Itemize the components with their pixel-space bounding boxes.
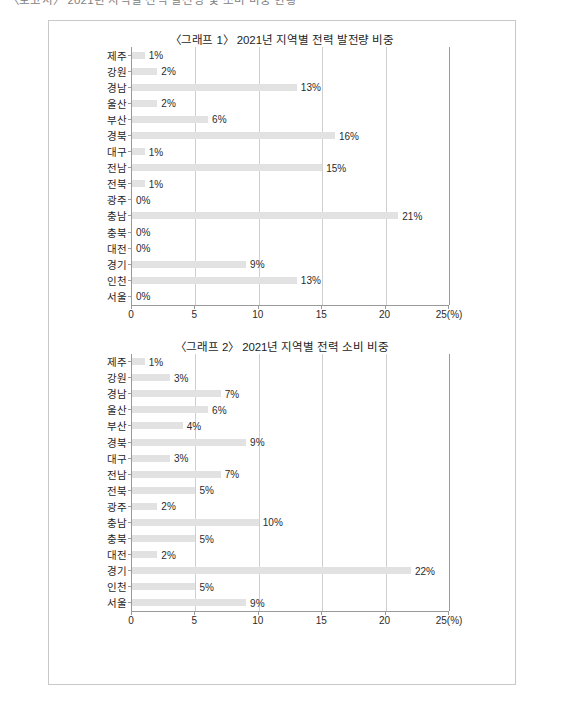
category-label: 울산 <box>53 402 127 417</box>
bar-row: 충남21% <box>132 208 448 224</box>
category-label: 광주 <box>53 499 127 514</box>
bar: 10% <box>132 519 259 526</box>
category-label: 전남 <box>53 160 127 175</box>
x-tick-label: 5 <box>192 615 198 626</box>
category-label: 제주 <box>53 354 127 369</box>
bar-row: 경북16% <box>132 127 448 143</box>
chart-1-rows: 제주1%강원2%경남13%울산2%부산6%경북16%대구1%전남15%전북1%광… <box>131 47 448 305</box>
bar: 1% <box>132 52 145 59</box>
bar: 4% <box>132 422 183 429</box>
bar-value-label: 5% <box>199 581 213 592</box>
category-label: 충북 <box>53 225 127 240</box>
bar-value-label: 10% <box>263 517 283 528</box>
category-label: 경남 <box>53 80 127 95</box>
bar: 2% <box>132 503 157 510</box>
x-tick-label: 0 <box>128 615 134 626</box>
bar: 1% <box>132 148 145 155</box>
bar: 15% <box>132 164 322 171</box>
bar-row: 충북5% <box>132 531 448 547</box>
chart-1-x-tick-labels: 0510152025(%) <box>131 306 448 322</box>
bar-value-label: 13% <box>301 275 321 286</box>
y-axis-tick <box>128 232 132 233</box>
bar: 9% <box>132 599 246 606</box>
x-tick-label: 20 <box>379 309 390 320</box>
bar-value-label: 9% <box>250 437 264 448</box>
chart-1-block: 〈그래프 1〉 2021년 지역별 전력 발전량 비중 제주1%강원2%경남13… <box>49 21 515 322</box>
x-tick-label: 10 <box>252 309 263 320</box>
bar-value-label: 2% <box>161 549 175 560</box>
bar: 2% <box>132 100 157 107</box>
chart-2-block: 〈그래프 2〉 2021년 지역별 전력 소비 비중 제주1%강원3%경남7%울… <box>49 322 515 629</box>
bar-row: 충북0% <box>132 224 448 240</box>
category-label: 경기 <box>53 257 127 272</box>
bar-row: 전남15% <box>132 160 448 176</box>
bar: 5% <box>132 487 195 494</box>
chart-1-plot: 제주1%강원2%경남13%울산2%부산6%경북16%대구1%전남15%전북1%광… <box>49 47 515 322</box>
category-label: 인천 <box>53 273 127 288</box>
bar-row: 서울0% <box>132 288 448 304</box>
bar: 2% <box>132 68 157 75</box>
category-label: 전북 <box>53 483 127 498</box>
bar-value-label: 7% <box>225 388 239 399</box>
bar-row: 경기9% <box>132 256 448 272</box>
bar: 5% <box>132 583 195 590</box>
category-label: 인천 <box>53 579 127 594</box>
gridline <box>449 354 450 612</box>
bar-value-label: 16% <box>339 130 359 141</box>
bar-value-label: 3% <box>174 453 188 464</box>
x-tick-label: 10 <box>252 615 263 626</box>
bar-row: 전북5% <box>132 482 448 498</box>
category-label: 경남 <box>53 386 127 401</box>
clipped-page-heading: 〈보고서〉 2021년 지역별 전력 발전량 및 소비 비중 현황 <box>8 0 548 5</box>
chart-2-x-tick-labels: 0510152025(%) <box>131 612 448 628</box>
y-axis-tick <box>128 248 132 249</box>
bar: 6% <box>132 406 208 413</box>
bar-value-label: 13% <box>301 82 321 93</box>
category-label: 제주 <box>53 48 127 63</box>
category-label: 전남 <box>53 467 127 482</box>
category-label: 충남 <box>53 515 127 530</box>
bar: 21% <box>132 212 398 219</box>
category-label: 대구 <box>53 451 127 466</box>
bar-row: 전북1% <box>132 176 448 192</box>
bar-value-label: 1% <box>149 50 163 61</box>
bar-value-label: 0% <box>136 194 150 205</box>
bar-value-label: 21% <box>402 210 422 221</box>
bar: 9% <box>132 261 246 268</box>
bar-value-label: 1% <box>149 146 163 157</box>
bar-row: 대구1% <box>132 144 448 160</box>
category-label: 대구 <box>53 144 127 159</box>
y-axis-tick <box>128 199 132 200</box>
bar-value-label: 6% <box>212 404 226 415</box>
bar-row: 강원3% <box>132 370 448 386</box>
bar-value-label: 0% <box>136 243 150 254</box>
category-label: 경북 <box>53 128 127 143</box>
chart-2-title: 〈그래프 2〉 2021년 지역별 전력 소비 비중 <box>49 322 515 354</box>
bar-row: 대전0% <box>132 240 448 256</box>
bar-value-label: 1% <box>149 356 163 367</box>
category-label: 울산 <box>53 96 127 111</box>
bar: 13% <box>132 277 297 284</box>
bar: 13% <box>132 84 297 91</box>
bar-row: 제주1% <box>132 47 448 63</box>
bar-value-label: 2% <box>161 501 175 512</box>
bar: 3% <box>132 455 170 462</box>
x-tick-label: 15 <box>316 615 327 626</box>
category-label: 광주 <box>53 192 127 207</box>
bar-value-label: 3% <box>174 372 188 383</box>
chart-2-plot: 제주1%강원3%경남7%울산6%부산4%경북9%대구3%전남7%전북5%광주2%… <box>49 354 515 629</box>
bar: 9% <box>132 439 246 446</box>
x-tick-label: 5 <box>192 309 198 320</box>
x-tick-label: 20 <box>379 615 390 626</box>
bar-row: 경북9% <box>132 434 448 450</box>
charts-frame: 〈그래프 1〉 2021년 지역별 전력 발전량 비중 제주1%강원2%경남13… <box>48 20 516 685</box>
bar-row: 경남7% <box>132 386 448 402</box>
bar-value-label: 1% <box>149 178 163 189</box>
bar: 3% <box>132 374 170 381</box>
x-tick-label: 25(%) <box>436 615 463 626</box>
bar-row: 대전2% <box>132 547 448 563</box>
category-label: 대전 <box>53 547 127 562</box>
bar-value-label: 22% <box>415 565 435 576</box>
bar: 2% <box>132 551 157 558</box>
bar-row: 충남10% <box>132 514 448 530</box>
